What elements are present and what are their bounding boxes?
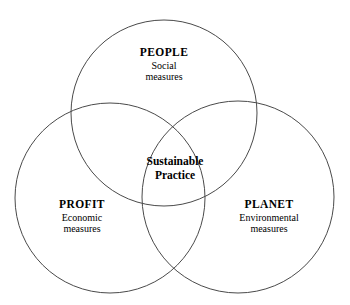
label-people-title: PEOPLE xyxy=(140,46,188,60)
label-planet-subtitle-line1: Environmental xyxy=(239,212,298,224)
label-profit-subtitle-line1: Economic xyxy=(59,212,105,224)
label-people-subtitle-line2: measures xyxy=(140,72,188,84)
label-intersection-sustainable-practice: Sustainable Practice xyxy=(147,155,204,183)
circle-profit xyxy=(15,103,205,293)
circle-planet xyxy=(142,101,334,293)
label-profit: PROFIT Economic measures xyxy=(59,198,105,235)
intersection-line1: Sustainable xyxy=(147,155,204,169)
label-planet-title: PLANET xyxy=(239,198,298,212)
venn-diagram: PEOPLE Social measures PROFIT Economic m… xyxy=(0,0,350,305)
label-people: PEOPLE Social measures xyxy=(140,46,188,83)
label-profit-subtitle-line2: measures xyxy=(59,224,105,236)
label-planet-subtitle-line2: measures xyxy=(239,224,298,236)
label-planet: PLANET Environmental measures xyxy=(239,198,298,235)
label-profit-title: PROFIT xyxy=(59,198,105,212)
intersection-line2: Practice xyxy=(147,169,204,183)
label-people-subtitle-line1: Social xyxy=(140,60,188,72)
